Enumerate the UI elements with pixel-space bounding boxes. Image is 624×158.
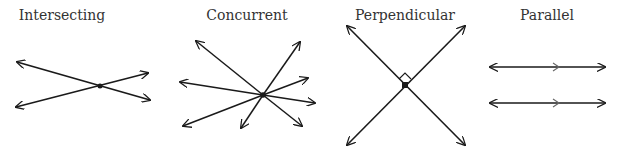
concurrent-point: [260, 92, 266, 98]
perpendicular-point: [402, 82, 408, 88]
intersecting-figure: [16, 62, 150, 107]
concurrent-figure: [180, 41, 315, 128]
perpendicular-figure: [347, 26, 465, 145]
lines-diagram: [0, 0, 624, 158]
right-angle-mark: [399, 73, 411, 79]
parallel-figure: [490, 63, 605, 107]
intersection-point: [98, 84, 103, 89]
